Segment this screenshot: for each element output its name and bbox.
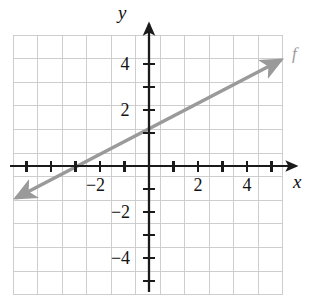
x-tick-label-4: 4 xyxy=(236,176,258,194)
y-axis xyxy=(143,24,155,292)
y-tick-label-neg4: −4 xyxy=(104,249,137,267)
x-tick-label-2: 2 xyxy=(187,176,209,194)
y-tick-label-4: 4 xyxy=(113,55,137,73)
x-axis xyxy=(10,161,296,172)
y-axis-label: y xyxy=(118,3,126,22)
function-label-f: f xyxy=(292,45,297,62)
x-tick-label-neg2: −2 xyxy=(79,176,112,194)
coordinate-plane-figure: y x f 4 2 −2 −4 −2 2 4 xyxy=(0,0,312,302)
y-tick-label-2: 2 xyxy=(113,101,137,119)
x-axis-label: x xyxy=(293,172,301,191)
y-tick-label-neg2: −2 xyxy=(104,203,137,221)
graph-canvas xyxy=(0,0,312,302)
